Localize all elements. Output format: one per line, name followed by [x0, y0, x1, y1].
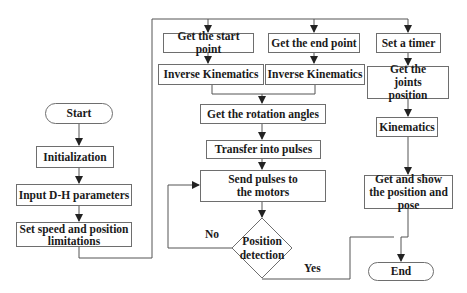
- kinematics-node: Kinematics: [376, 117, 438, 137]
- set-timer-node: Set a timer: [376, 33, 441, 53]
- initialization-node: Initialization: [36, 146, 114, 168]
- get-start-point-node: Get the start point: [163, 33, 254, 53]
- input-dh-node: Input D-H parameters: [16, 184, 132, 206]
- inverse-kinematics-start-node: Inverse Kinematics: [158, 64, 264, 85]
- start-node: Start: [45, 103, 113, 124]
- transfer-pulses-node: Transfer into pulses: [206, 140, 321, 159]
- inverse-kinematics-end-node: Inverse Kinematics: [265, 64, 365, 85]
- end-node: End: [368, 262, 434, 281]
- set-speed-node: Set speed and position limitations: [16, 222, 132, 247]
- no-label: No: [205, 228, 219, 240]
- joints-position-node: Get the joints position: [367, 66, 449, 99]
- send-pulses-node: Send pulses to the motors: [200, 170, 326, 202]
- yes-label: Yes: [304, 262, 321, 274]
- show-pose-node: Get and show the position and pose: [364, 175, 453, 209]
- rotation-angles-node: Get the rotation angles: [200, 104, 326, 124]
- position-detection-label: Position detection: [232, 234, 292, 262]
- get-end-point-node: Get the end point: [268, 33, 360, 53]
